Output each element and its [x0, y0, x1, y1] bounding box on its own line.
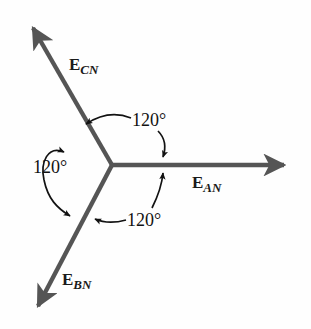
phasor-label-ebn: EBN	[62, 271, 91, 291]
angle-arc-cn-to-an-left	[86, 115, 131, 124]
phasor-line-ecn	[33, 28, 112, 165]
phasor-symbol-ecn: E	[69, 55, 80, 74]
phasor-symbol-ebn: E	[62, 270, 73, 289]
angle-arc-bn-to-an-left	[95, 219, 126, 222]
phasor-diagram: ECN EAN EBN 120° 120° 120°	[0, 0, 311, 329]
phasor-subscript-ean: AN	[203, 180, 221, 195]
phasor-symbol-ean: E	[192, 173, 203, 192]
angle-arc-cn-to-bn-lower	[44, 180, 70, 216]
angle-arc-cn-to-an-right	[158, 131, 165, 157]
phasor-subscript-ecn: CN	[80, 62, 98, 77]
phasor-label-ecn: ECN	[69, 56, 98, 76]
phasor-subscript-ebn: BN	[73, 277, 91, 292]
angle-arc-bn-to-an-right	[152, 173, 163, 208]
angle-label-cn-to-an: 120°	[132, 111, 166, 129]
angle-label-bn-to-an: 120°	[127, 211, 161, 229]
angle-label-cn-to-bn: 120°	[33, 158, 67, 176]
phasor-label-ean: EAN	[192, 174, 221, 194]
